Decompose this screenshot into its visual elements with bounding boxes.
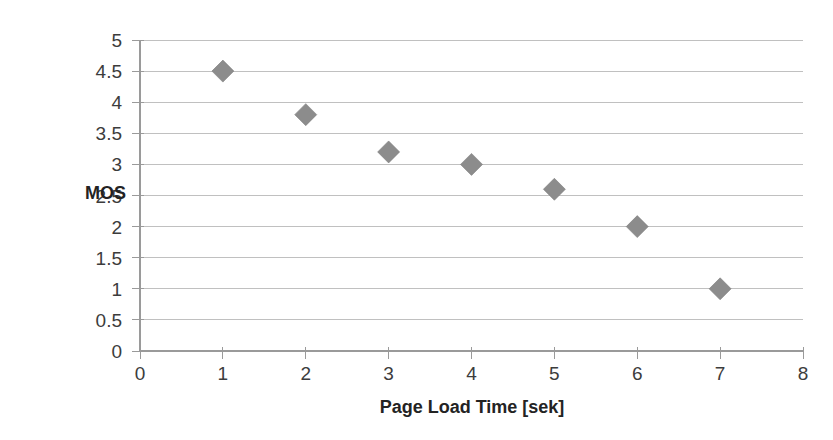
y-axis-tick-label: 4: [111, 92, 122, 113]
y-axis-tick-label: 4.5: [96, 61, 122, 82]
x-axis-tick-label: 3: [383, 363, 394, 384]
y-axis-tick-label: 3.5: [96, 123, 122, 144]
x-axis-tick-label: 7: [715, 363, 726, 384]
x-axis-title: Page Load Time [sek]: [380, 397, 565, 417]
y-axis-title: MOS: [85, 183, 126, 203]
chart-container: 00.511.522.533.544.55 012345678 MOS Page…: [0, 0, 833, 440]
x-axis-tick-label: 1: [218, 363, 229, 384]
x-axis-tick-label: 5: [549, 363, 560, 384]
y-axis-tick-label: 3: [111, 154, 122, 175]
x-axis-tick-label: 6: [632, 363, 643, 384]
y-axis-tick-label: 0.5: [96, 310, 122, 331]
y-axis-tick-label: 0: [111, 341, 122, 362]
chart-background: [0, 0, 833, 440]
y-axis-tick-label: 1: [111, 279, 122, 300]
y-axis-tick-label: 1.5: [96, 248, 122, 269]
x-axis-tick-label: 0: [135, 363, 146, 384]
scatter-chart: 00.511.522.533.544.55 012345678 MOS Page…: [0, 0, 833, 440]
x-axis-tick-label: 4: [466, 363, 477, 384]
x-axis-tick-label: 2: [300, 363, 311, 384]
y-axis-tick-label: 5: [111, 30, 122, 51]
y-axis-tick-label: 2: [111, 217, 122, 238]
x-axis-tick-label: 8: [798, 363, 809, 384]
